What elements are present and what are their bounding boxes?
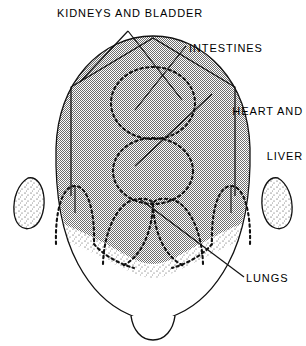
- label-kidneys-and-bladder: KIDNEYS AND BLADDER: [57, 6, 203, 21]
- left-ear: [14, 178, 44, 229]
- chin: [131, 316, 175, 340]
- label-heart-and-liver: HEART AND LIVER: [215, 74, 303, 194]
- label-intestines: INTESTINES: [189, 41, 263, 56]
- label-heart-line2: LIVER: [215, 149, 303, 164]
- head-reflexology-diagram: KIDNEYS AND BLADDER INTESTINES HEART AND…: [0, 0, 306, 346]
- label-heart-line1: HEART AND: [215, 104, 303, 119]
- label-lungs: LUNGS: [246, 271, 288, 286]
